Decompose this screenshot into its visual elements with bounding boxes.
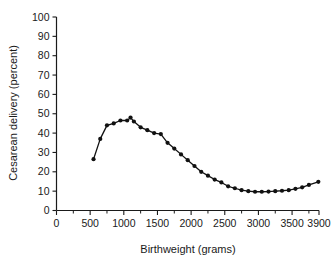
cesarean-delivery-line-chart: 0102030405060708090100 05001000150020002… [0, 0, 331, 264]
data-point [266, 189, 270, 193]
data-point [105, 123, 109, 127]
data-point [213, 177, 217, 181]
y-tick-label: 60 [38, 88, 50, 100]
data-point [199, 170, 203, 174]
data-point [159, 132, 163, 136]
data-point [260, 190, 264, 194]
y-tick-label: 50 [38, 107, 50, 119]
y-tick-label: 10 [38, 185, 50, 197]
x-tick-label: 0 [54, 217, 60, 229]
data-point [280, 189, 284, 193]
x-tick-label: 3900 [307, 217, 331, 229]
y-tick-label: 90 [38, 30, 50, 42]
y-tick-label: 80 [38, 49, 50, 61]
data-point [112, 121, 116, 125]
y-tick-label: 70 [38, 69, 50, 81]
x-tick-label: 3000 [247, 217, 271, 229]
data-point [152, 131, 156, 135]
data-point [206, 174, 210, 178]
data-point [300, 185, 304, 189]
data-point [165, 141, 169, 145]
x-tick-label: 500 [81, 217, 99, 229]
x-tick-label: 2500 [213, 217, 237, 229]
data-point [226, 184, 230, 188]
data-point [132, 119, 136, 123]
data-point [240, 188, 244, 192]
data-point [293, 187, 297, 191]
data-point [287, 188, 291, 192]
data-point [91, 157, 95, 161]
data-point [192, 164, 196, 168]
x-axis-title: Birthweight (grams) [140, 243, 235, 255]
data-point [246, 189, 250, 193]
data-point [307, 183, 311, 187]
y-tick-label: 100 [32, 11, 50, 23]
y-tick-label: 20 [38, 165, 50, 177]
data-point [219, 180, 223, 184]
data-point [273, 189, 277, 193]
data-point [233, 186, 237, 190]
y-tick-label: 30 [38, 146, 50, 158]
data-point [139, 125, 143, 129]
data-point [179, 152, 183, 156]
y-axis-title: Cesarean delivery (percent) [7, 45, 19, 181]
x-tick-label: 1000 [112, 217, 136, 229]
data-point [172, 146, 176, 150]
x-tick-label: 2000 [179, 217, 203, 229]
y-tick-label: 0 [44, 204, 50, 216]
data-point [316, 180, 320, 184]
y-tick-label: 40 [38, 127, 50, 139]
data-point [253, 190, 257, 194]
x-tick-label: 3500 [280, 217, 304, 229]
data-point [186, 158, 190, 162]
x-axis-tick-labels: 05001000150020002500300035003900 [54, 217, 331, 229]
data-point [118, 118, 122, 122]
data-point [125, 118, 129, 122]
data-point [128, 116, 132, 120]
data-point [98, 137, 102, 141]
chart-figure: 0102030405060708090100 05001000150020002… [0, 0, 331, 264]
x-tick-label: 1500 [146, 217, 170, 229]
data-point [145, 128, 149, 132]
